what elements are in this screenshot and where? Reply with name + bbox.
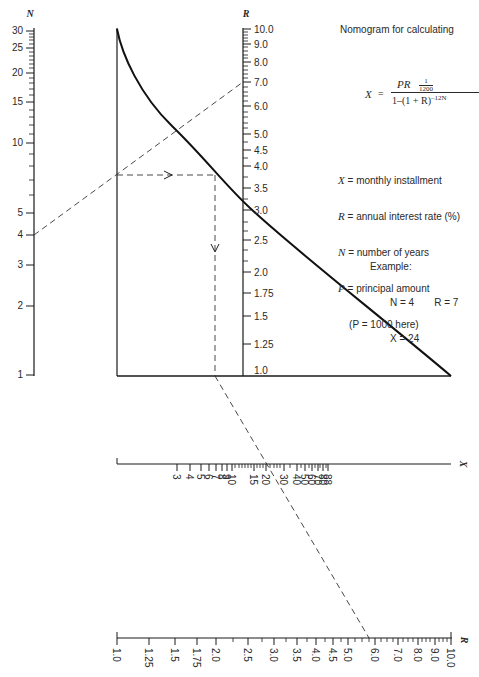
r-tick-label: 1.25	[254, 339, 274, 350]
formula-denominator-base: 1–(1 + R)	[392, 95, 431, 106]
n-tick-label: 20	[12, 67, 24, 78]
n-tick-label: 4	[17, 229, 23, 240]
legend-symbol: X	[338, 174, 345, 186]
r-tick-label: 1.0	[254, 365, 268, 376]
n-tick-label: 5	[17, 207, 23, 218]
x-tick-label: 15	[248, 474, 259, 486]
x-tick-label: 3	[171, 474, 182, 480]
r-bottom-tick-label: 1.75	[191, 648, 202, 668]
formula-denominator: 1–(1 + R)–12N	[392, 94, 447, 106]
r-bottom-tick-label: 4.0	[310, 648, 321, 662]
r-tick-label: 9.0	[254, 39, 268, 50]
legend-symbol: P	[338, 282, 345, 294]
n-tick-label: 1	[17, 369, 23, 380]
legend-symbol: R	[338, 210, 345, 222]
example-n: N = 4	[390, 297, 414, 308]
example-heading: Example:	[370, 261, 458, 273]
r-tick-label: 2.0	[254, 267, 268, 278]
r-bottom-tick-label: 9.0	[429, 648, 440, 662]
formula-fraction: 1 1200	[419, 78, 433, 93]
r-tick-label: 10.0	[254, 24, 274, 35]
example-r: R = 7	[434, 297, 458, 308]
n-axis	[26, 28, 34, 376]
n-tick-label: 25	[12, 42, 24, 53]
r-axis-horizontal	[117, 632, 452, 645]
r-bottom-tick-label: 3.5	[291, 648, 302, 662]
x-tick-label: 20	[260, 474, 271, 486]
r-bottom-tick-label: 2.5	[242, 648, 253, 662]
diagram-title: Nomogram for calculating	[340, 24, 454, 36]
r-tick-label: 1.75	[254, 288, 274, 299]
n-tick-label: 15	[12, 96, 24, 107]
x-axis-name: X	[458, 460, 469, 468]
r-axis-vertical-labels: R 10.0 9.0 8.0 7.0 6.0 5.0 4.5 4.0 3.5 3…	[242, 8, 274, 376]
r-tick-label: 7.0	[254, 77, 268, 88]
r-bottom-tick-label: 1.5	[169, 648, 180, 662]
formula-fraction-bar	[391, 92, 479, 93]
r-tick-label: 2.5	[254, 235, 268, 246]
r-bottom-tick-label: 10.0	[445, 648, 456, 668]
legend-text: = monthly installment	[348, 175, 442, 186]
n-tick-label: 3	[17, 259, 23, 270]
n-axis-name: N	[25, 8, 34, 19]
r-bottom-tick-label: 4.5	[327, 648, 338, 662]
r-tick-label: 5.0	[254, 129, 268, 140]
r-bottom-tick-label: 8.0	[412, 648, 423, 662]
legend-item: X = monthly installment	[338, 174, 460, 186]
r-axis-name: R	[242, 8, 250, 19]
example-line-1: N = 4R = 7	[370, 297, 458, 309]
r-bottom-tick-label: 1.25	[143, 648, 154, 668]
r-bottom-tick-label: 3.0	[268, 648, 279, 662]
formula-lhs: X	[365, 88, 372, 100]
example-block: Example: N = 4R = 7 X = 24	[370, 237, 458, 357]
r-bottom-tick-label: 5.0	[342, 648, 353, 662]
legend-text: = annual interest rate (%)	[348, 211, 461, 222]
formula-denominator-exponent: –12N	[431, 94, 447, 102]
x-tick-label: 30	[278, 474, 289, 486]
n-tick-label: 10	[12, 137, 24, 148]
formula-fraction-num: 1	[419, 78, 433, 85]
r-bottom-tick-label: 6.0	[369, 648, 380, 662]
n-tick-label: 30	[12, 25, 24, 36]
formula-equals: =	[378, 88, 384, 99]
n-tick-label: 2	[17, 300, 23, 311]
r-bottom-tick-label: 1.0	[111, 648, 122, 662]
example-x: X = 24	[370, 333, 458, 345]
formula-numerator: PR 1 1200	[397, 78, 433, 93]
r-tick-label: 4.5	[254, 145, 268, 156]
r-bottom-tick-label: 2.0	[210, 648, 221, 662]
x-tick-label: 4	[184, 474, 195, 480]
x-tick-label: 88	[322, 474, 333, 486]
r-tick-label: 3.5	[254, 183, 268, 194]
r-axis-horizontal-labels: R 1.0 1.25 1.5 1.75 2.0 2.5 3.0 3.5 4.0 …	[111, 636, 470, 668]
r-tick-label: 8.0	[254, 57, 268, 68]
formula-numerator-pr: PR	[397, 78, 410, 90]
legend-symbol: N	[338, 246, 345, 258]
legend-item: R = annual interest rate (%)	[338, 210, 460, 222]
r-tick-label: 3.0	[254, 205, 268, 216]
r-axis-bottom-name: R	[459, 636, 470, 644]
r-tick-label: 4.0	[254, 161, 268, 172]
r-bottom-tick-label: 7.0	[392, 648, 403, 662]
x-tick-label: 10	[226, 474, 237, 486]
r-tick-label: 1.5	[254, 311, 268, 322]
example-construction-lines	[34, 82, 369, 638]
x-axis	[117, 458, 451, 471]
r-tick-label: 6.0	[254, 101, 268, 112]
